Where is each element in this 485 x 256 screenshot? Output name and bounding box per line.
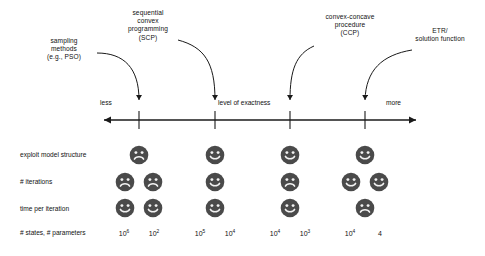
face-happy xyxy=(369,172,389,192)
arrow-scp xyxy=(178,40,215,100)
face-sad xyxy=(143,172,163,192)
parameter-value: 103 xyxy=(291,230,319,237)
parameter-value: 104 xyxy=(261,230,289,237)
parameter-value: 104 xyxy=(216,230,244,237)
face-sad xyxy=(129,145,149,165)
parameter-value: 105 xyxy=(186,230,214,237)
face-happy xyxy=(280,145,300,165)
face-happy xyxy=(341,172,361,192)
face-sad xyxy=(115,172,135,192)
face-happy xyxy=(205,145,225,165)
arrow-ccp xyxy=(290,46,314,100)
face-sad xyxy=(280,172,300,192)
parameter-value: 102 xyxy=(140,230,168,237)
parameter-value: 106 xyxy=(110,230,138,237)
parameter-value: 104 xyxy=(336,230,364,237)
face-happy xyxy=(115,198,135,218)
face-sad xyxy=(355,198,375,218)
arrow-etr xyxy=(365,50,412,100)
face-happy xyxy=(205,198,225,218)
face-happy xyxy=(355,145,375,165)
face-happy xyxy=(143,198,163,218)
face-happy xyxy=(205,172,225,192)
annotation-arrows xyxy=(97,40,412,100)
diagram-canvas: sampling methods (e.g., PSO) sequential … xyxy=(0,0,485,256)
arrow-sampling-methods xyxy=(97,53,139,100)
vector-overlay xyxy=(0,0,485,256)
parameter-value: 4 xyxy=(366,230,394,237)
face-happy xyxy=(280,198,300,218)
